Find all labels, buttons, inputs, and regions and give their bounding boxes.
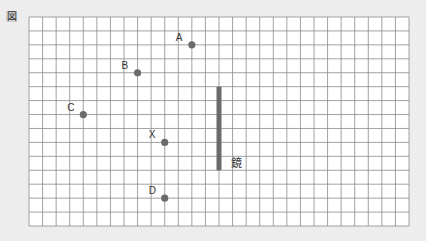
- point-x: [161, 139, 168, 146]
- point-b: [134, 69, 141, 76]
- point-c: [80, 111, 87, 118]
- point-label-b: B: [122, 60, 129, 71]
- point-a: [188, 41, 195, 48]
- mirror-grid-diagram: 鏡ABCXD: [0, 0, 426, 241]
- point-label-a: A: [176, 32, 183, 43]
- point-d: [161, 195, 168, 202]
- mirror-label: 鏡: [231, 156, 242, 170]
- point-label-d: D: [149, 185, 156, 196]
- mirror: [217, 87, 222, 171]
- point-label-c: C: [67, 102, 74, 113]
- point-label-x: X: [149, 129, 156, 140]
